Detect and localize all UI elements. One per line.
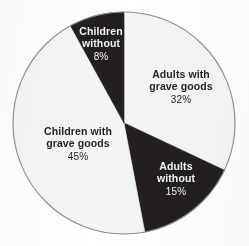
pie-chart-graphic (0, 0, 249, 246)
pie-chart-figure: Children without 8% Adults with grave go… (0, 0, 249, 246)
